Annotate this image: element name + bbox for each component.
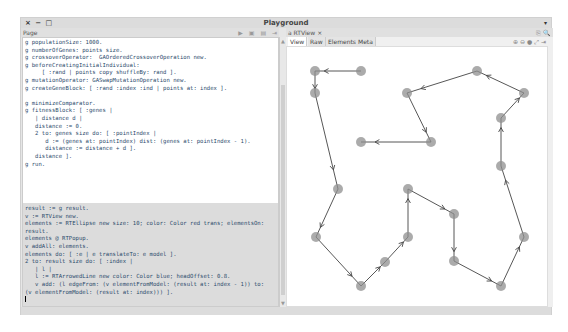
graph-node[interactable] (402, 88, 412, 98)
graph-node[interactable] (472, 66, 482, 76)
graph-node[interactable] (519, 88, 529, 98)
edge (408, 189, 454, 214)
graph-node[interactable] (380, 257, 390, 267)
graph-node[interactable] (496, 161, 506, 171)
graph-node[interactable] (426, 137, 436, 147)
tsp-graph (0, 0, 568, 332)
edge (477, 71, 524, 93)
graph-node[interactable] (311, 232, 321, 242)
graph-node[interactable] (356, 66, 366, 76)
edge (407, 93, 431, 142)
graph-node[interactable] (310, 66, 320, 76)
graph-node[interactable] (496, 281, 506, 291)
edge (454, 261, 501, 286)
graph-node[interactable] (449, 209, 459, 219)
graph-node[interactable] (403, 184, 413, 194)
graph-node[interactable] (403, 232, 413, 242)
graph-node[interactable] (333, 184, 343, 194)
edge (316, 237, 361, 286)
graph-node[interactable] (356, 281, 366, 291)
edge (316, 189, 338, 237)
edge (315, 93, 338, 189)
graph-node[interactable] (519, 232, 529, 242)
graph-node[interactable] (356, 137, 366, 147)
edge (501, 166, 524, 237)
edge (385, 237, 408, 262)
edge (501, 93, 524, 118)
edge (361, 262, 385, 286)
edge (407, 71, 477, 93)
graph-node[interactable] (496, 113, 506, 123)
graph-node[interactable] (310, 88, 320, 98)
edge (501, 237, 524, 286)
graph-node[interactable] (449, 256, 459, 266)
